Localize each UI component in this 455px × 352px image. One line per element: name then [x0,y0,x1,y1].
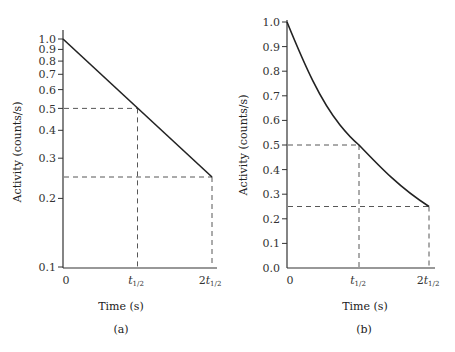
tick-label: 0.8 [263,65,281,78]
tick-label: 0.7 [263,90,281,103]
reference-lines-b [288,145,429,268]
tick-label: 1.0 [263,16,281,29]
panel-b: 1.0 0.9 0.8 0.7 0.6 0.5 0.4 0.3 0.2 0.1 … [237,16,439,336]
tick-label: 0.6 [39,84,57,97]
x-tick-0-a: 0 [63,274,70,287]
tick-label: 0.3 [263,188,281,201]
tick-label: 0.4 [263,164,281,177]
tick-label: 0.5 [39,103,57,116]
x-tick-2thalf-b: 2t1/2 [417,274,440,288]
y-axis-label-b: Activity (counts/s) [237,95,250,197]
y-ticks-b [282,22,287,243]
tick-label: 0.9 [263,41,281,54]
reference-lines-a [64,108,212,267]
tick-label: 0.7 [39,68,57,81]
x-tick-thalf-a: t1/2 [128,274,144,288]
caption-b: (b) [356,323,372,336]
x-tick-0-b: 0 [287,274,294,287]
tick-label: 0.1 [263,237,281,250]
tick-label: 0.4 [39,124,57,137]
y-axis-label-a: Activity (counts/s) [11,102,24,204]
y-ticks-a [58,39,63,267]
x-axis-label-b: Time (s) [342,300,388,313]
x-tick-thalf-b: t1/2 [350,274,366,288]
tick-label: 0.8 [39,55,57,68]
tick-label: 0.2 [39,192,57,205]
tick-label: 0.0 [263,262,281,275]
caption-a: (a) [113,323,128,336]
y-tick-labels-a: 1.0 0.9 0.8 0.7 0.6 0.5 0.4 0.3 0.2 0.1 [39,33,57,274]
tick-label: 0.1 [39,261,57,274]
tick-label: 0.2 [263,213,281,226]
activity-curve-b [287,22,429,207]
half-life-figure: 1.0 0.9 0.8 0.7 0.6 0.5 0.4 0.3 0.2 0.1 … [0,0,455,352]
x-axis-label-a: Time (s) [98,300,144,313]
tick-label: 0.5 [263,139,281,152]
panel-a: 1.0 0.9 0.8 0.7 0.6 0.5 0.4 0.3 0.2 0.1 … [11,30,221,336]
x-tick-2thalf-a: 2t1/2 [199,274,222,288]
tick-label: 0.3 [39,152,57,165]
tick-label: 0.6 [263,114,281,127]
y-tick-labels-b: 1.0 0.9 0.8 0.7 0.6 0.5 0.4 0.3 0.2 0.1 … [263,16,281,275]
